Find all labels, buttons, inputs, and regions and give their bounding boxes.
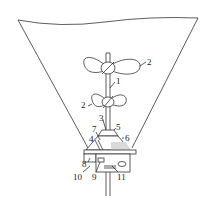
label-10: 10 — [73, 172, 83, 182]
leader-1 — [110, 82, 115, 88]
base-flange — [84, 150, 136, 172]
label-6: 6 — [125, 133, 130, 143]
tank-right-wall — [132, 18, 198, 148]
shaft — [106, 53, 110, 196]
label-4: 4 — [89, 134, 94, 144]
lower-impeller — [92, 94, 127, 108]
tank-top-edge — [18, 18, 198, 25]
label-8: 8 — [82, 159, 87, 169]
label-2-lower: 2 — [81, 100, 86, 110]
label-11: 11 — [117, 172, 126, 182]
tank-left-wall — [18, 20, 88, 148]
label-9: 9 — [92, 172, 97, 182]
upper-impeller — [84, 57, 140, 74]
agitator-diagram: 1 2 2 3 4 5 6 7 8 9 10 11 — [0, 0, 213, 210]
label-3: 3 — [99, 113, 104, 123]
label-5: 5 — [116, 122, 121, 132]
label-1: 1 — [116, 76, 121, 86]
leader-2b — [88, 104, 92, 106]
label-7: 7 — [92, 124, 97, 134]
leader-2a — [140, 62, 146, 66]
label-2-upper: 2 — [147, 57, 152, 67]
